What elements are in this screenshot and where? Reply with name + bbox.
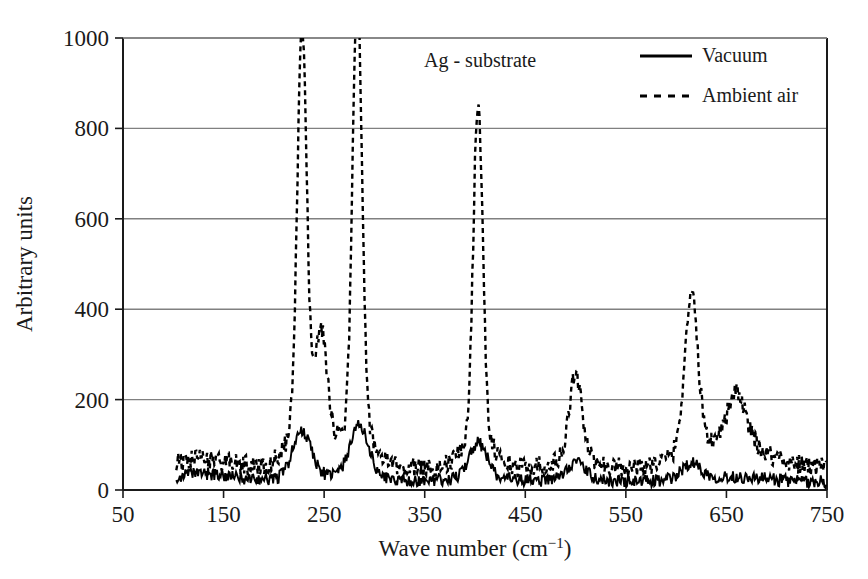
x-axis-title: Wave number (cm−1) xyxy=(379,535,572,561)
chart-figure: 50150250350450550650750 0200400600800100… xyxy=(0,0,868,579)
x-title-base: Wave number (cm xyxy=(379,536,548,561)
x-tick-label-350: 350 xyxy=(407,502,442,527)
x-tick-label-650: 650 xyxy=(709,502,744,527)
x-tick-label-250: 250 xyxy=(307,502,342,527)
x-tick-label-50: 50 xyxy=(112,502,135,527)
legend-label-vacuum: Vacuum xyxy=(702,44,768,66)
y-axis-title: Arbitrary units xyxy=(12,196,37,332)
legend-label-ambient-air: Ambient air xyxy=(702,84,798,106)
plot-annotation: Ag - substrate xyxy=(424,49,536,72)
y-tick-label-600: 600 xyxy=(75,207,110,232)
x-tick-label-750: 750 xyxy=(810,502,845,527)
y-tick-label-200: 200 xyxy=(75,388,110,413)
y-tick-label-1000: 1000 xyxy=(63,26,109,51)
x-title-superscript: −1 xyxy=(548,535,564,551)
x-title-tail: ) xyxy=(564,536,572,561)
y-tick-label-800: 800 xyxy=(75,116,110,141)
x-tick-label-150: 150 xyxy=(206,502,241,527)
spectrum-chart: 50150250350450550650750 0200400600800100… xyxy=(0,0,868,579)
x-tick-label-550: 550 xyxy=(609,502,644,527)
y-tick-label-400: 400 xyxy=(75,297,110,322)
x-tick-label-450: 450 xyxy=(508,502,543,527)
y-tick-label-0: 0 xyxy=(98,478,110,503)
